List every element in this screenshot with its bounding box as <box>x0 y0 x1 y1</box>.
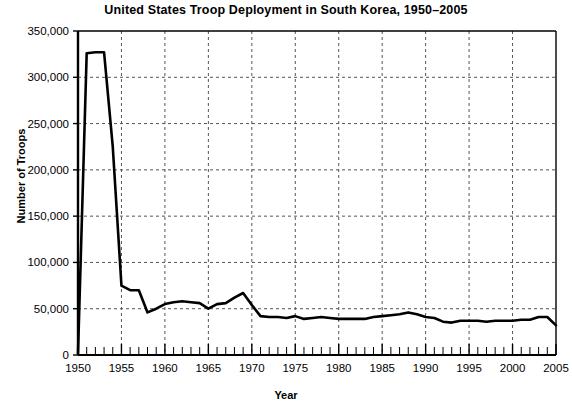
plot-frame <box>78 31 556 355</box>
y-tick-label: 250,000 <box>0 118 69 130</box>
x-tick-label: 1965 <box>196 362 222 374</box>
page-edge-artifact <box>286 402 572 411</box>
data-series-group <box>78 52 556 353</box>
y-tick-label: 350,000 <box>0 25 69 37</box>
x-tick-label: 1985 <box>369 362 395 374</box>
y-tick-label: 100,000 <box>0 256 69 268</box>
y-tick-label: 0 <box>0 349 69 361</box>
x-tick-label: 1960 <box>152 362 178 374</box>
data-series-line-0 <box>78 52 556 353</box>
y-tick-label: 200,000 <box>0 164 69 176</box>
y-tick-label: 300,000 <box>0 71 69 83</box>
y-tick-label: 150,000 <box>0 210 69 222</box>
x-tick-label: 1975 <box>282 362 308 374</box>
x-tick-label: 2005 <box>543 362 569 374</box>
x-tick-label: 1970 <box>239 362 265 374</box>
x-tick-label: 2000 <box>500 362 526 374</box>
x-tick-label: 1995 <box>456 362 482 374</box>
plot-area <box>0 0 572 411</box>
gridlines <box>78 31 556 355</box>
x-tick-label: 1955 <box>109 362 135 374</box>
y-tick-label: 50,000 <box>0 303 69 315</box>
x-minor-ticks <box>78 344 556 355</box>
x-tick-label: 1990 <box>413 362 439 374</box>
x-tick-label: 1950 <box>65 362 91 374</box>
chart-figure: United States Troop Deployment in South … <box>0 0 572 411</box>
x-tick-label: 1980 <box>326 362 352 374</box>
